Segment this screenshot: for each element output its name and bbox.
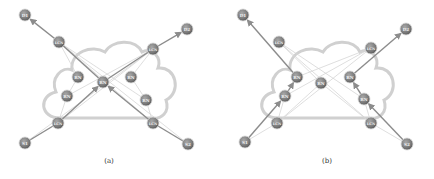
caption-b: (b) [312, 157, 342, 165]
node-label: RN [346, 75, 353, 80]
node-label: S1 [242, 140, 248, 145]
node-label: RN [74, 75, 81, 80]
node-a-rn_rt: RN [125, 71, 137, 83]
node-a-rn_c: RN [97, 76, 109, 88]
node-b-d2: D2 [400, 23, 412, 35]
node-a-lcn_tr: LCN [147, 43, 159, 55]
node-a-s1: S1 [19, 137, 31, 149]
node-label: S2 [404, 142, 410, 147]
node-label: LCN [275, 41, 284, 45]
caption-a: (a) [94, 157, 124, 165]
node-label: D1 [22, 13, 29, 18]
node-a-rn_lt: RN [72, 71, 84, 83]
faint-links [25, 42, 407, 144]
node-label: D1 [240, 13, 247, 18]
node-a-d2: D2 [181, 23, 193, 35]
node-label: RN [281, 94, 288, 99]
node-a-s2: S2 [182, 138, 194, 150]
node-label: LCN [55, 41, 64, 45]
node-label: RN [99, 80, 106, 85]
faint-link [59, 42, 188, 144]
node-a-d1: D1 [19, 9, 31, 21]
node-a-lcn_tl: LCN [53, 36, 65, 48]
node-label: S2 [185, 142, 191, 147]
node-b-rn_ll: RN [279, 90, 291, 102]
node-b-lcn_tr: LCN [365, 42, 377, 54]
node-b-rn_lr: RN [358, 93, 370, 105]
node-b-rn_c: RN [315, 77, 327, 89]
node-a-lcn_bl: LCN [52, 117, 64, 129]
node-label: RN [63, 94, 70, 99]
nodes: D1D2LCNLCNRNRNRNRNRNLCNLCNS1S2D1D2LCNLCN… [19, 9, 413, 150]
node-b-lcn_tl: LCN [273, 36, 285, 48]
node-label: RN [293, 75, 300, 80]
node-b-s1: S1 [239, 136, 251, 148]
node-label: RN [360, 97, 367, 102]
node-b-s2: S2 [401, 138, 413, 150]
node-b-rn_ul: RN [291, 71, 303, 83]
node-a-rn_lb: RN [61, 90, 73, 102]
node-label: LCN [54, 122, 63, 126]
node-label: D2 [184, 27, 191, 32]
node-a-lcn_br: LCN [147, 117, 159, 129]
node-b-d1: D1 [237, 9, 249, 21]
node-label: LCN [149, 48, 158, 52]
network-diagram: D1D2LCNLCNRNRNRNRNRNLCNLCNS1S2D1D2LCNLCN… [0, 0, 434, 179]
node-label: LCN [273, 122, 282, 126]
node-a-rn_rb: RN [140, 94, 152, 106]
faint-link [25, 49, 153, 143]
node-label: LCN [367, 47, 376, 51]
node-label: RN [142, 98, 149, 103]
node-label: D2 [403, 27, 410, 32]
node-label: RN [317, 81, 324, 86]
node-b-lcn_bl: LCN [271, 117, 283, 129]
node-label: RN [127, 75, 134, 80]
node-label: LCN [367, 122, 376, 126]
node-label: S1 [22, 141, 28, 146]
node-b-rn_ur: RN [344, 71, 356, 83]
node-label: LCN [149, 122, 158, 126]
node-b-lcn_br: LCN [365, 117, 377, 129]
faint-link [297, 48, 371, 77]
